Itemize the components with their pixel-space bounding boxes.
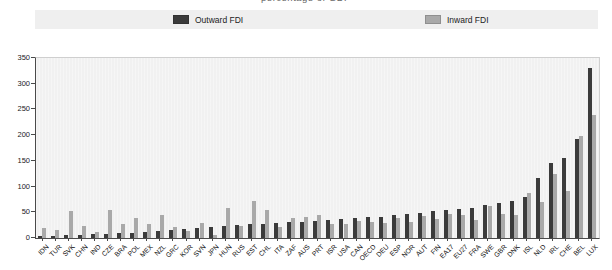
x-tick-mark <box>565 238 566 241</box>
y-tick-label: 50 <box>2 207 30 216</box>
x-axis-label-svk: SVK <box>61 243 76 258</box>
x-axis-label-chn: CHN <box>73 243 88 258</box>
x-tick-mark <box>474 238 475 241</box>
x-tick-mark <box>186 238 187 241</box>
inward-fdi-bar-can <box>357 221 361 238</box>
inward-fdi-bar-ind <box>95 232 99 238</box>
x-tick-mark <box>356 238 357 241</box>
y-tick-mark <box>31 160 35 161</box>
x-tick-mark <box>238 238 239 241</box>
y-tick-mark <box>31 134 35 135</box>
x-tick-mark <box>552 238 553 241</box>
x-tick-mark <box>42 238 43 241</box>
x-axis-label-nld: NLD <box>532 243 547 258</box>
x-tick-mark <box>330 238 331 241</box>
x-axis-label-bel: BEL <box>572 243 586 257</box>
x-tick-mark <box>539 238 540 241</box>
y-tick-label: 250 <box>2 104 30 113</box>
chart-legend: Outward FDI Inward FDI <box>35 10 598 29</box>
x-axis-label-fra: FRA <box>467 243 482 258</box>
x-tick-mark <box>68 238 69 241</box>
x-tick-mark <box>120 238 121 241</box>
fdi-stocks-chart: percentage of GDP Outward FDI Inward FDI… <box>0 0 612 270</box>
x-axis-label-pol: POL <box>127 243 142 258</box>
inward-fdi-swatch-icon <box>425 15 441 24</box>
inward-fdi-bar-eu27 <box>461 215 465 238</box>
x-tick-mark <box>146 238 147 241</box>
x-tick-mark <box>487 238 488 241</box>
inward-fdi-bar-isl <box>527 193 531 238</box>
x-axis-label-che: CHE <box>558 243 573 258</box>
x-tick-mark <box>578 238 579 241</box>
inward-fdi-bar-ita <box>278 227 282 238</box>
x-axis-label-esp: ESP <box>388 243 403 258</box>
inward-fdi-bar-bel <box>579 136 583 238</box>
x-axis-label-svn: SVN <box>192 243 207 258</box>
x-axis-label-jpn: JPN <box>206 243 220 257</box>
x-axis-label-swe: SWE <box>479 243 495 259</box>
inward-fdi-bar-prt <box>317 215 321 238</box>
inward-fdi-bar-est <box>252 201 256 238</box>
y-tick-mark <box>31 57 35 58</box>
x-tick-mark <box>290 238 291 241</box>
x-axis-label-grc: GRC <box>165 243 181 259</box>
x-axis-label-ea17: EA17 <box>439 243 456 260</box>
inward-fdi-bar-nor <box>409 222 413 238</box>
x-axis-label-deu: DEU <box>375 243 390 258</box>
x-tick-mark <box>212 238 213 241</box>
inward-fdi-bar-fin <box>435 219 439 238</box>
x-tick-mark <box>317 238 318 241</box>
inward-fdi-bar-chn <box>82 226 86 238</box>
inward-fdi-bar-isr <box>330 224 334 238</box>
x-axis-label-aut: AUT <box>415 243 430 258</box>
x-tick-mark <box>251 238 252 241</box>
inward-fdi-bar-mex <box>147 224 151 238</box>
y-tick-label: 300 <box>2 78 30 87</box>
inward-fdi-bar-aus <box>304 217 308 238</box>
x-tick-mark <box>199 238 200 241</box>
y-tick-label: 200 <box>2 130 30 139</box>
x-axis-label-prt: PRT <box>310 243 324 257</box>
legend-label-inward: Inward FDI <box>447 15 489 25</box>
inward-fdi-bar-che <box>566 191 570 238</box>
x-tick-mark <box>55 238 56 241</box>
inward-fdi-bar-chl <box>265 210 269 238</box>
x-tick-mark <box>159 238 160 241</box>
x-axis-label-ind: IND <box>89 243 102 256</box>
x-tick-mark <box>447 238 448 241</box>
x-axis-label-est: EST <box>245 243 259 257</box>
x-axis-label-kor: KOR <box>178 243 193 258</box>
x-tick-mark <box>107 238 108 241</box>
inward-fdi-bar-kor <box>186 231 190 238</box>
x-axis-label-hun: HUN <box>217 243 232 258</box>
x-tick-mark <box>591 238 592 241</box>
inward-fdi-bar-rus <box>239 226 243 238</box>
x-axis-label-usa: USA <box>336 243 351 258</box>
x-axis-label-idn: IDN <box>36 243 49 256</box>
inward-fdi-bar-pol <box>134 218 138 238</box>
x-tick-mark <box>526 238 527 241</box>
inward-fdi-bar-nzl <box>160 215 164 238</box>
clipped-chart-title: percentage of GDP <box>0 0 612 3</box>
y-tick-label: 350 <box>2 53 30 62</box>
y-tick-mark <box>31 237 35 238</box>
y-tick-label: 100 <box>2 181 30 190</box>
inward-fdi-bar-jpn <box>213 235 217 238</box>
x-axis-label-rus: RUS <box>231 243 246 258</box>
inward-fdi-bar-bra <box>121 224 125 238</box>
x-tick-mark <box>369 238 370 241</box>
inward-fdi-bar-aut <box>422 216 426 238</box>
y-tick-label: 150 <box>2 155 30 164</box>
x-axis-label-nor: NOR <box>400 243 416 259</box>
inward-fdi-bar-lux <box>592 115 596 238</box>
inward-fdi-bar-idn <box>42 228 46 238</box>
legend-label-outward: Outward FDI <box>195 15 243 25</box>
x-tick-mark <box>94 238 95 241</box>
y-tick-label: 0 <box>2 233 30 242</box>
x-tick-mark <box>277 238 278 241</box>
x-axis-label-aus: AUS <box>297 243 312 258</box>
x-tick-mark <box>408 238 409 241</box>
outward-fdi-swatch-icon <box>173 15 189 24</box>
x-axis-label-tur: TUR <box>48 243 63 258</box>
inward-fdi-bar-cze <box>108 210 112 238</box>
